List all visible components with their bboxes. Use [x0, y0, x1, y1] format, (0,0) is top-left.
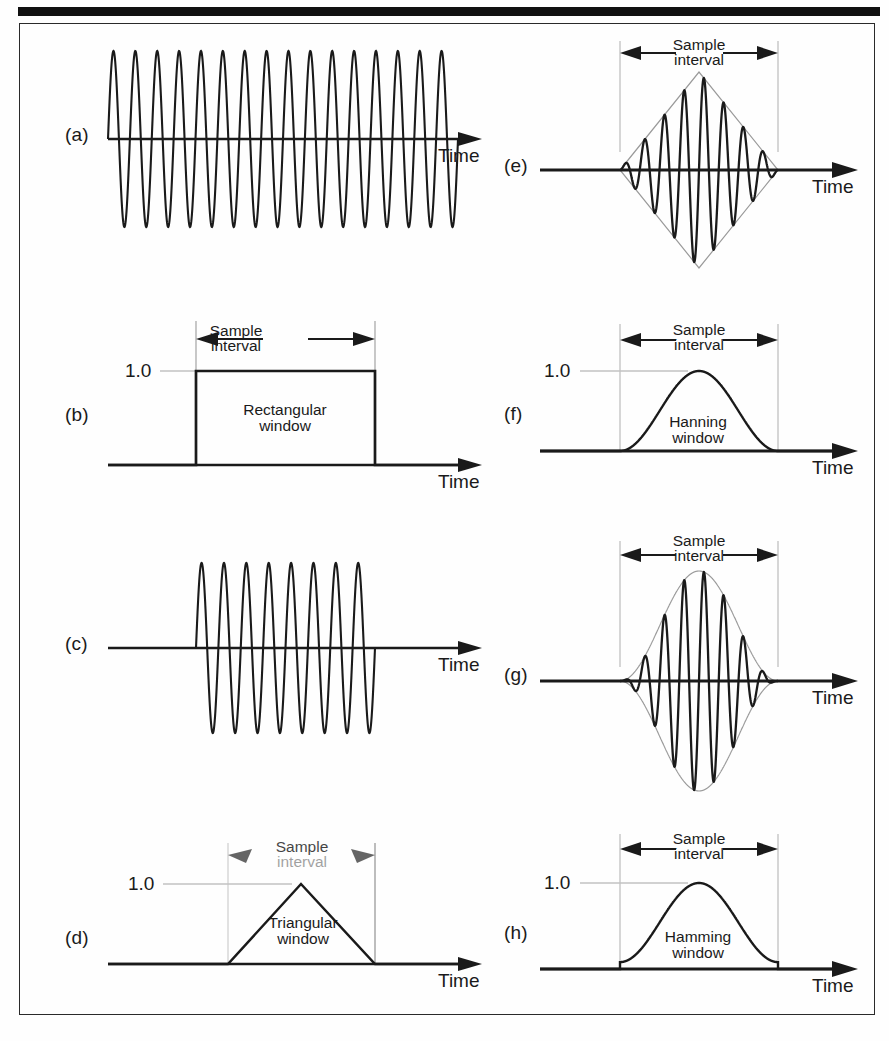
panel-h: (h)	[480, 799, 876, 1014]
panel-d-plot	[20, 799, 480, 1014]
sample-interval-line1: Sample	[252, 839, 352, 854]
panel-b-sample-interval: Sample interval	[186, 323, 286, 353]
panel-h-time-axis	[540, 961, 858, 977]
window-name-line1: Hanning	[618, 414, 778, 430]
arrow-right-icon	[757, 46, 778, 60]
sample-interval-line1: Sample	[649, 533, 749, 548]
sample-interval-line2: interval	[649, 337, 749, 352]
panel-a: (a) Time	[20, 24, 480, 274]
sample-interval-line1: Sample	[649, 322, 749, 337]
time-arrowhead-icon	[458, 132, 482, 146]
sample-interval-line2: interval	[186, 338, 286, 353]
panel-b-plot	[20, 279, 480, 494]
panel-c-time-axis	[108, 641, 482, 655]
panel-e-time-label: Time	[812, 176, 854, 198]
arrow-left-icon	[620, 548, 641, 562]
time-arrowhead-icon	[458, 458, 482, 472]
window-name-line1: Triangular	[223, 915, 383, 931]
top-black-rule	[18, 7, 880, 16]
panel-g-time-label: Time	[812, 687, 854, 709]
panel-b-time-axis	[108, 458, 482, 472]
time-arrowhead-icon	[458, 957, 482, 971]
panel-e: (e)	[480, 24, 876, 284]
figure-frame: (a) Time (b)	[19, 23, 875, 1015]
window-name-line2: window	[618, 945, 778, 961]
panel-d: (d)	[20, 799, 480, 1014]
figure-root: (a) Time (b)	[0, 0, 889, 1041]
panel-d-sample-interval: Sample interval	[252, 839, 352, 869]
panel-c: (c) Time	[20, 514, 480, 764]
panel-b-time-label: Time	[438, 471, 480, 493]
panel-g-plot	[480, 524, 876, 794]
arrow-left-icon	[620, 46, 641, 60]
sample-interval-line1: Sample	[186, 323, 286, 338]
arrow-right-icon	[757, 842, 778, 856]
panel-f-sample-interval: Sample interval	[649, 322, 749, 352]
panel-b: (b)	[20, 279, 480, 494]
arrow-right-icon	[757, 333, 778, 347]
sample-interval-line2: interval	[649, 548, 749, 563]
arrow-right-icon	[757, 548, 778, 562]
sample-interval-line1: Sample	[649, 37, 749, 52]
window-name-line1: Rectangular	[205, 402, 365, 418]
panel-g-sample-interval: Sample interval	[649, 533, 749, 563]
panel-c-time-label: Time	[438, 654, 480, 676]
panel-f-window-name: Hanning window	[618, 414, 778, 446]
panel-e-sample-interval: Sample interval	[649, 37, 749, 67]
sample-interval-line2: interval	[649, 52, 749, 67]
panel-d-window-name: Triangular window	[223, 915, 383, 947]
sample-interval-line1: Sample	[649, 831, 749, 846]
panel-h-window-name: Hamming window	[618, 929, 778, 961]
arrow-right-icon	[353, 332, 375, 346]
arrow-right-icon	[351, 849, 375, 863]
panel-g: (g)	[480, 524, 876, 794]
window-name-line2: window	[223, 931, 383, 947]
window-name-line2: window	[618, 430, 778, 446]
window-name-line1: Hamming	[618, 929, 778, 945]
panel-b-amplitude-label: 1.0	[125, 360, 151, 382]
panel-d-time-label: Time	[438, 970, 480, 992]
panel-h-time-label: Time	[812, 975, 854, 997]
panel-f: (f)	[480, 286, 876, 496]
panel-h-amplitude-label: 1.0	[544, 872, 570, 894]
panel-f-amplitude-label: 1.0	[544, 360, 570, 382]
arrow-left-icon	[620, 333, 641, 347]
panel-b-window-name: Rectangular window	[205, 402, 365, 434]
panel-h-sample-interval: Sample interval	[649, 831, 749, 861]
arrow-left-icon	[620, 842, 641, 856]
window-name-line2: window	[205, 418, 365, 434]
panel-d-amplitude-label: 1.0	[128, 873, 154, 895]
panel-a-plot	[20, 24, 480, 274]
panel-c-plot	[20, 514, 480, 764]
panel-d-time-axis	[108, 957, 482, 971]
sample-interval-line2: interval	[649, 846, 749, 861]
sample-interval-line2: interval	[252, 854, 352, 869]
time-arrowhead-icon	[458, 641, 482, 655]
panel-a-time-label: Time	[438, 145, 480, 167]
arrow-left-icon	[228, 849, 252, 863]
panel-f-time-label: Time	[812, 457, 854, 479]
